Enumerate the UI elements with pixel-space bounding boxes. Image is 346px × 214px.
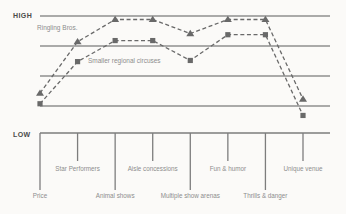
category-label-aisle-concessions: Aisle concessions [128,166,178,172]
category-label-unique-venue: Unique venue [284,166,323,172]
x-axis [40,133,330,190]
square-marker-icon [263,32,268,37]
triangle-marker-icon [74,38,82,44]
strategy-canvas-chart: HIGH LOW Ringling Bros. Smaller regional… [0,0,346,214]
category-label-fun-humor: Fun & humor [210,166,246,172]
category-label-price: Price [33,193,47,199]
triangle-marker-icon [111,16,119,22]
category-label-star-performers: Star Performers [55,166,99,172]
triangle-marker-icon [299,95,307,101]
square-marker-icon [113,38,118,43]
square-marker-icon [150,38,155,43]
square-marker-icon [225,32,230,37]
square-marker-icon [37,101,42,106]
category-label-animal-shows: Animal shows [96,193,135,199]
category-label-multiple-show-arenas: Multiple show arenas [161,193,220,199]
y-axis-low-label: LOW [13,131,31,138]
chart-canvas [0,0,346,214]
series-label-smaller-regional: Smaller regional circuses [88,58,161,65]
square-marker-icon [300,113,305,118]
series-line [40,35,303,116]
square-marker-icon [188,58,193,63]
y-axis-high-label: HIGH [13,12,32,19]
category-label-thrills-danger: Thrills & danger [243,193,287,199]
series-label-ringling-bros: Ringling Bros. [37,25,77,32]
square-marker-icon [75,59,80,64]
regional-series [37,32,305,118]
gridlines [40,16,330,106]
